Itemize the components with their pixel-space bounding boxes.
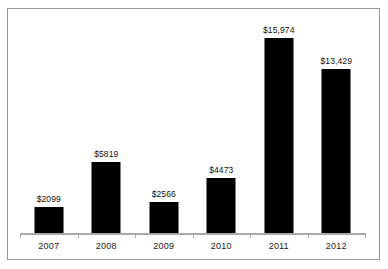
bar-group: $4473 bbox=[193, 14, 251, 233]
x-axis-label-2008: 2008 bbox=[96, 240, 117, 252]
bar-2012 bbox=[322, 69, 351, 233]
bar-group: $5819 bbox=[78, 14, 136, 233]
x-axis-label-2011: 2011 bbox=[269, 240, 289, 252]
bar-value-label-2007: $2099 bbox=[37, 194, 61, 204]
bar-2009 bbox=[149, 202, 178, 233]
bar-value-label-2009: $2566 bbox=[152, 189, 176, 199]
x-axis-label-2012: 2012 bbox=[326, 240, 347, 252]
x-axis-tick bbox=[20, 233, 21, 238]
x-axis-label-2007: 2007 bbox=[38, 240, 59, 252]
bar-value-label-2010: $4473 bbox=[209, 165, 233, 175]
bar-2008 bbox=[92, 162, 121, 233]
x-axis-label-2010: 2010 bbox=[211, 240, 232, 252]
bar-value-label-2012: $13,429 bbox=[321, 56, 352, 66]
bar-value-label-2011: $15,974 bbox=[263, 25, 294, 35]
x-axis-category-labels: 200720082009201020112012 bbox=[20, 240, 365, 254]
bar-group: $15,974 bbox=[250, 14, 308, 233]
x-axis-tick bbox=[365, 233, 366, 238]
bar-group: $2566 bbox=[135, 14, 193, 233]
bar-2010 bbox=[207, 178, 236, 233]
bar-2007 bbox=[34, 207, 63, 233]
x-axis-tick bbox=[250, 233, 251, 238]
x-axis-tick bbox=[78, 233, 79, 238]
x-axis-tick bbox=[193, 233, 194, 238]
bar-group: $13,429 bbox=[308, 14, 366, 233]
x-axis-tick bbox=[135, 233, 136, 238]
bar-2011 bbox=[264, 38, 293, 233]
bar-value-label-2008: $5819 bbox=[94, 149, 118, 159]
bar-group: $2099 bbox=[20, 14, 78, 233]
plot-area: $2099$5819$2566$4473$15,974$13,429 bbox=[20, 14, 365, 233]
bar-chart-figure: $2099$5819$2566$4473$15,974$13,429 20072… bbox=[0, 0, 388, 269]
x-axis-label-2009: 2009 bbox=[153, 240, 174, 252]
x-axis-tick bbox=[308, 233, 309, 238]
